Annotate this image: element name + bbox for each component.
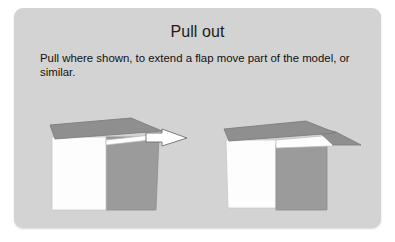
screenshot-canvas: Pull out Pull where shown, to extend a f… (0, 0, 395, 242)
body-side-face (106, 137, 159, 210)
model-after-svg (214, 100, 374, 218)
instruction-text: Pull where shown, to extend a flap move … (40, 52, 354, 79)
diagram-after-pull (214, 100, 374, 218)
body-front-face (52, 137, 106, 210)
instruction-card: Pull out Pull where shown, to extend a f… (14, 8, 381, 228)
body-side-face-extended (276, 145, 327, 210)
diagram-before-pull (28, 100, 203, 218)
body-front-face (226, 140, 276, 208)
page-title: Pull out (14, 22, 381, 42)
model-before-svg (28, 100, 203, 218)
